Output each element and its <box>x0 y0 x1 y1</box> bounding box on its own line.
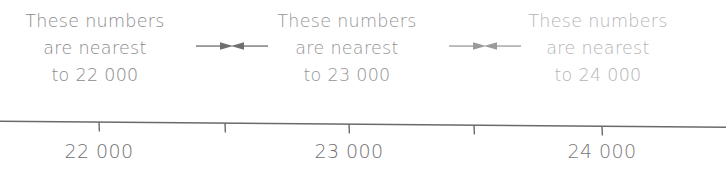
annotation-line-1: These numbers <box>10 8 180 35</box>
annotation-line-3: to 23 000 <box>262 62 432 89</box>
axis-tick-label: 22 000 <box>29 140 169 162</box>
annotation-line-1: These numbers <box>513 8 683 35</box>
annotation-line-2: are nearest <box>10 35 180 62</box>
annotation-block-22000: These numbers are nearest to 22 000 <box>10 8 180 89</box>
converging-arrows-icon <box>196 38 268 54</box>
figure-canvas: These numbers are nearest to 22 000 Thes… <box>0 0 726 189</box>
annotation-block-24000: These numbers are nearest to 24 000 <box>513 8 683 89</box>
axis-tick-label: 24 000 <box>532 140 672 162</box>
annotation-line-2: are nearest <box>513 35 683 62</box>
annotation-line-1: These numbers <box>262 8 432 35</box>
annotation-line-3: to 24 000 <box>513 62 683 89</box>
number-line-axis <box>0 98 726 138</box>
axis-tick-label: 23 000 <box>279 140 419 162</box>
converging-arrows-icon <box>449 38 521 54</box>
annotation-line-2: are nearest <box>262 35 432 62</box>
annotation-line-3: to 22 000 <box>10 62 180 89</box>
annotation-block-23000: These numbers are nearest to 23 000 <box>262 8 432 89</box>
